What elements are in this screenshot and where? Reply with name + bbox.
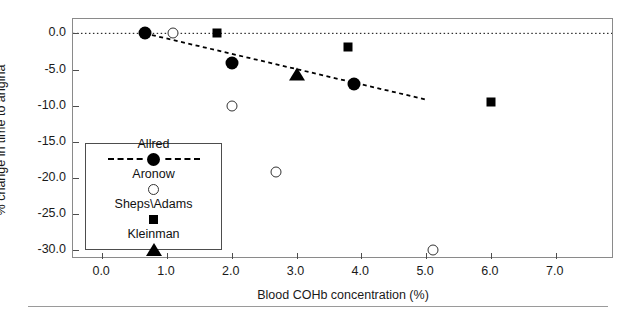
angina-cohb-scatter-figure: % change in time to angina Blood COHb co…	[0, 0, 633, 315]
legend-label-aronow: Aronow	[132, 167, 174, 182]
x-tick-label: 3.0	[287, 264, 304, 278]
legend-symbol-kleinman	[86, 242, 221, 257]
data-point-filled-circle	[138, 27, 151, 40]
data-point-filled-circle	[347, 78, 360, 91]
legend: Allred Aronow Sheps\Adams Kleinman	[85, 143, 222, 250]
legend-item-sheps-adams: Sheps\Adams	[86, 197, 221, 227]
y-tick-mark	[73, 33, 79, 34]
legend-item-aronow: Aronow	[86, 167, 221, 197]
legend-symbol-allred	[86, 152, 221, 167]
y-tick-mark	[73, 178, 79, 179]
x-tick-label: 6.0	[481, 264, 498, 278]
x-tick-label: 2.0	[222, 264, 239, 278]
y-tick-mark	[73, 214, 79, 215]
x-tick-mark	[426, 253, 427, 259]
data-point-open-circle	[270, 166, 281, 177]
filled-square-icon	[149, 215, 158, 224]
legend-label-sheps-adams: Sheps\Adams	[115, 197, 193, 212]
data-point-square	[344, 43, 353, 52]
y-tick-label: -5.0	[44, 62, 66, 76]
y-tick-label: -15.0	[38, 134, 67, 148]
y-tick-mark	[73, 142, 79, 143]
y-tick-label: -10.0	[38, 98, 67, 112]
x-tick-mark	[297, 253, 298, 259]
y-tick-mark	[73, 106, 79, 107]
y-tick-label: -25.0	[38, 206, 67, 220]
legend-item-allred: Allred	[86, 137, 221, 167]
x-tick-label: 0.0	[92, 264, 109, 278]
legend-item-kleinman: Kleinman	[86, 227, 221, 257]
footer-divider	[28, 306, 608, 307]
legend-label-kleinman: Kleinman	[127, 227, 179, 242]
x-tick-label: 7.0	[546, 264, 563, 278]
allred-trend-line	[145, 33, 425, 99]
y-tick-label: -20.0	[38, 170, 67, 184]
x-tick-label: 5.0	[416, 264, 433, 278]
x-tick-mark	[491, 253, 492, 259]
x-tick-mark	[361, 253, 362, 259]
data-point-filled-circle	[225, 57, 238, 70]
legend-label-allred: Allred	[138, 137, 170, 152]
x-tick-mark	[232, 253, 233, 259]
x-tick-label: 4.0	[352, 264, 369, 278]
y-axis-title: % change in time to angina	[0, 65, 8, 216]
filled-circle-icon	[147, 153, 160, 166]
data-point-triangle	[289, 67, 305, 80]
legend-symbol-aronow	[86, 182, 221, 197]
data-point-square	[486, 98, 495, 107]
y-tick-label: -30.0	[38, 242, 67, 256]
filled-triangle-icon	[146, 243, 162, 256]
data-point-open-circle	[168, 27, 179, 38]
legend-symbol-sheps-adams	[86, 212, 221, 227]
y-tick-label: 0.0	[49, 25, 66, 39]
y-tick-mark	[73, 70, 79, 71]
x-tick-label: 1.0	[157, 264, 174, 278]
data-point-square	[213, 29, 222, 38]
x-axis-title: Blood COHb concentration (%)	[257, 288, 429, 302]
open-circle-icon	[148, 184, 159, 195]
x-tick-mark	[556, 253, 557, 259]
data-point-open-circle	[226, 101, 237, 112]
data-point-open-circle	[427, 244, 438, 255]
y-tick-mark	[73, 250, 79, 251]
